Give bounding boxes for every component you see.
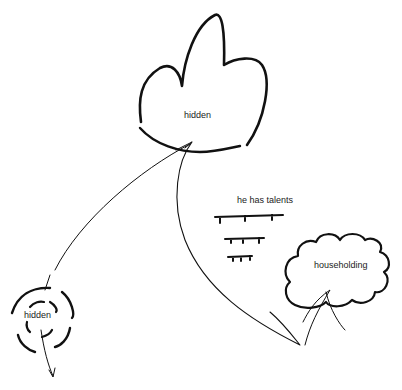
diagram-canvas: hidden hidden householding he has talent… bbox=[0, 0, 402, 390]
top-cloud-shape bbox=[140, 15, 267, 145]
householding-label: householding bbox=[314, 260, 368, 270]
talents-annotation: he has talents bbox=[237, 195, 293, 205]
talents-line-2 bbox=[225, 238, 264, 243]
diagram-drawing bbox=[0, 0, 402, 390]
top-cloud-label: hidden bbox=[184, 110, 211, 120]
talents-line-1 bbox=[215, 215, 283, 223]
top-cloud-bottom bbox=[140, 128, 240, 152]
talents-line-3 bbox=[228, 256, 252, 261]
householding-cloud-shape bbox=[286, 234, 389, 308]
edge-to-hidden-left bbox=[55, 144, 190, 270]
edge-to-householding bbox=[177, 142, 300, 345]
hidden-left-label: hidden bbox=[24, 310, 51, 320]
